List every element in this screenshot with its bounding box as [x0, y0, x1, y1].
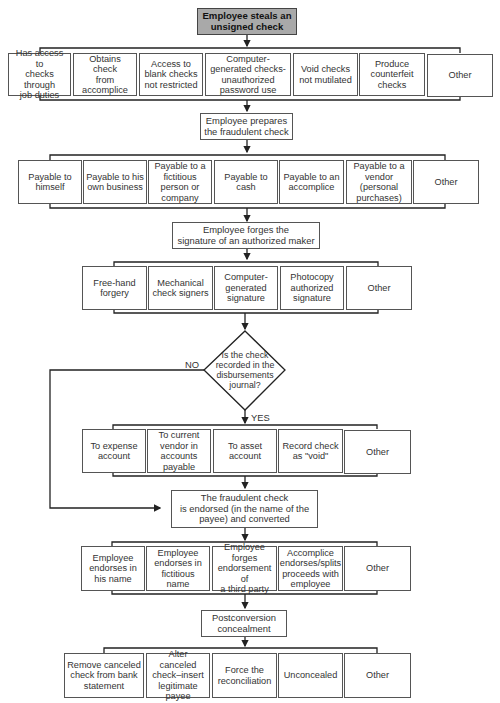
- payee-fictitious: Payable to a fictitious person or compan…: [148, 160, 212, 204]
- endorse-his-name: Employee endorses in his name: [81, 546, 145, 591]
- theft-method-job-duties: Has access to checks through job duties: [8, 53, 71, 96]
- start-node: Employee steals an unsigned check: [197, 8, 297, 35]
- payee-himself: Payable to himself: [18, 160, 82, 204]
- theft-method-counterfeit: Produce counterfeit checks: [359, 53, 425, 96]
- forgery-photocopy: Photocopy authorized signature: [280, 266, 344, 310]
- record-expense-account: To expense account: [82, 429, 146, 473]
- endorse-accomplice: Accomplice endorses/splits proceeds with…: [278, 546, 343, 591]
- payee-own-business: Payable to his own business: [83, 160, 147, 204]
- conceal-unconcealed: Unconcealed: [278, 653, 343, 698]
- decision-recorded-in-journal: Is the check recorded in the disbursemen…: [212, 350, 278, 390]
- conceal-other: Other: [344, 653, 411, 698]
- payee-accomplice: Payable to an accomplice: [279, 160, 344, 204]
- conceal-force-reconciliation: Force the reconciliation: [212, 653, 277, 698]
- record-other: Other: [344, 430, 411, 474]
- theft-method-blank-checks: Access to blank checks not restricted: [139, 53, 203, 96]
- payee-vendor: Payable to a vendor (personal purchases): [346, 160, 412, 204]
- endorse-third-party: Employee forges endorsement of a third p…: [212, 546, 277, 591]
- record-current-vendor: To current vendor in accounts payable: [147, 429, 211, 473]
- conceal-remove-check: Remove canceled check from bank statemen…: [64, 653, 144, 698]
- conceal-alter-check: Alter canceled check–insert legitimate p…: [146, 653, 210, 698]
- forge-signature-node: Employee forges the signature of an auth…: [172, 222, 320, 249]
- endorse-fictitious-name: Employee endorses in fictitious name: [146, 546, 210, 591]
- forgery-free-hand: Free-hand forgery: [82, 266, 147, 310]
- forgery-computer: Computer- generated signature: [214, 266, 278, 310]
- decision-no-label: NO: [185, 359, 199, 370]
- payee-cash: Payable to cash: [214, 160, 278, 204]
- forgery-other: Other: [346, 266, 412, 310]
- theft-method-computer-generated: Computer- generated checks- unauthorized…: [205, 53, 291, 96]
- record-void: Record check as "void": [278, 429, 343, 473]
- prepare-check-node: Employee prepares the fraudulent check: [200, 113, 293, 140]
- record-asset-account: To asset account: [213, 429, 277, 473]
- theft-method-other: Other: [427, 54, 493, 97]
- decision-yes-label: YES: [251, 412, 270, 423]
- endorse-other: Other: [344, 546, 411, 591]
- endorse-convert-node: The fraudulent check is endorsed (in the…: [171, 490, 318, 528]
- forgery-mechanical: Mechanical check signers: [148, 266, 213, 310]
- theft-method-accomplice: Obtains check from accomplice: [73, 53, 137, 96]
- theft-method-void-checks: Void checks not mutilated: [293, 53, 358, 96]
- postconversion-concealment-node: Postconversion concealment: [201, 610, 287, 637]
- payee-other: Other: [413, 160, 479, 204]
